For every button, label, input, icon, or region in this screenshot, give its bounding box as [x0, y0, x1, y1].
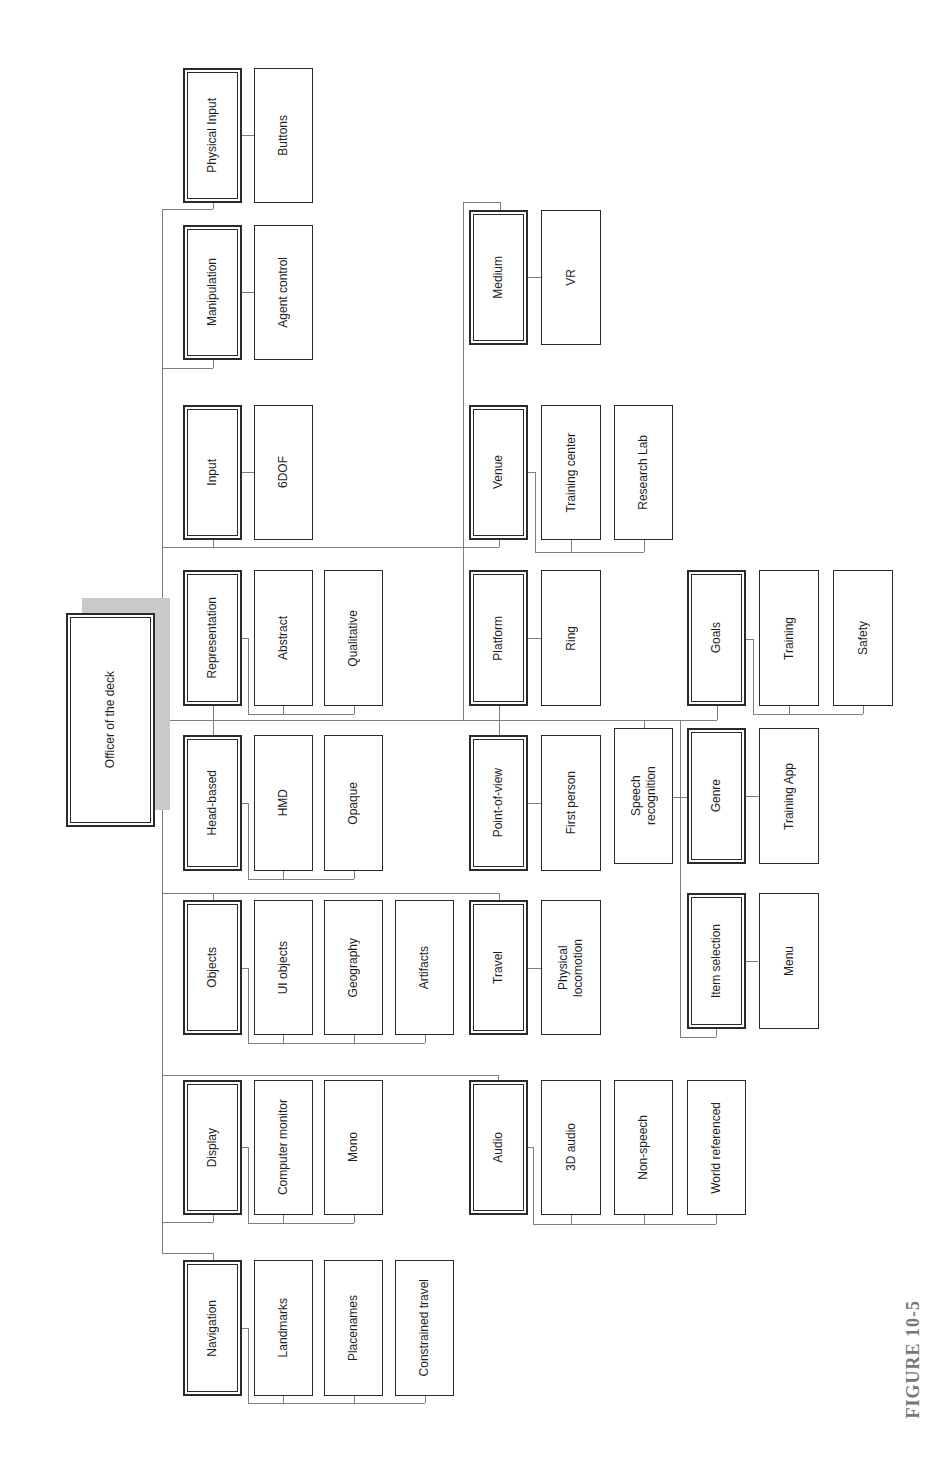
node-label: Genre: [709, 779, 724, 812]
connector-line: [242, 135, 254, 136]
connector-line: [248, 1147, 249, 1223]
node-agent-control: Agent control: [254, 225, 313, 360]
connector-line: [425, 1396, 426, 1403]
node-label: Geography: [346, 938, 361, 997]
node-ui-objects: UI objects: [254, 900, 313, 1035]
connector-line: [354, 1396, 355, 1403]
connector-second-trunk: [463, 202, 464, 720]
node-research-lab: Research Lab: [614, 405, 673, 540]
connector-line: [213, 706, 214, 735]
node-label: Audio: [491, 1132, 506, 1163]
connector-line: [535, 552, 644, 553]
node-label: Abstract: [276, 616, 291, 660]
connector-line: [716, 1029, 717, 1037]
node-6dof: 6DOF: [254, 405, 313, 540]
node-abstract: Abstract: [254, 570, 313, 706]
node-label: Safety: [856, 621, 871, 655]
connector-line: [283, 706, 284, 714]
node-physical-input: Physical Input: [183, 68, 242, 203]
connector-line: [248, 1043, 425, 1044]
node-label: Officer of the deck: [103, 671, 118, 768]
connector-line: [162, 368, 213, 369]
connector-line: [354, 871, 355, 879]
node-artifacts: Artifacts: [395, 900, 454, 1035]
connector-line: [499, 706, 500, 735]
connector-line: [213, 1253, 214, 1260]
connector-line: [242, 292, 254, 293]
node-label: Agent control: [276, 257, 291, 328]
node-travel: Travel: [469, 900, 528, 1035]
node-label: Menu: [782, 946, 797, 976]
connector-line: [213, 1215, 214, 1222]
node-label: Objects: [205, 947, 220, 988]
connector-line: [533, 1147, 534, 1224]
node-label: Training center: [564, 433, 579, 513]
connector-line: [571, 540, 572, 552]
node-placenames: Placenames: [324, 1260, 383, 1396]
connector-line: [248, 638, 249, 714]
connector-line: [753, 639, 754, 714]
connector-line: [673, 797, 687, 798]
node-physical-locomotion: Physical locomotion: [541, 900, 601, 1035]
node-genre: Genre: [687, 728, 746, 864]
connector-line: [213, 202, 214, 209]
connector-line: [248, 879, 354, 880]
node-point-of-view: Point-of-view: [469, 735, 528, 871]
node-item-selection: Item selection: [687, 893, 746, 1029]
node-3d-audio: 3D audio: [541, 1080, 601, 1215]
node-label: Point-of-view: [491, 768, 506, 837]
connector-line: [528, 968, 541, 969]
connector-line: [242, 472, 254, 473]
node-label: Goals: [709, 622, 724, 653]
node-label: Representation: [205, 597, 220, 678]
connector-line: [354, 1035, 355, 1043]
connector-line: [863, 706, 864, 714]
node-label: Platform: [491, 616, 506, 661]
node-label: World referenced: [709, 1102, 724, 1194]
node-world-referenced: World referenced: [687, 1080, 746, 1215]
node-label: Physical locomotion: [556, 931, 586, 1005]
connector-line: [746, 961, 758, 962]
connector-line: [283, 1396, 284, 1403]
connector-line: [499, 893, 500, 900]
connector-line: [499, 540, 500, 547]
connector-line: [644, 1215, 645, 1224]
node-audio: Audio: [469, 1080, 528, 1215]
node-label: Medium: [491, 256, 506, 299]
node-head-based: Head-based: [183, 735, 242, 871]
connector-line: [248, 968, 249, 1043]
node-label: Constrained travel: [417, 1279, 432, 1376]
node-label: Item selection: [709, 924, 724, 998]
connector-line: [354, 706, 355, 714]
node-label: Opaque: [346, 782, 361, 825]
node-label: 3D audio: [564, 1123, 579, 1171]
connector-root-line: [155, 720, 717, 721]
node-training-center: Training center: [541, 405, 601, 540]
connector-line: [528, 638, 541, 639]
node-label: Travel: [491, 951, 506, 984]
node-training: Training: [759, 570, 819, 706]
node-manipulation: Manipulation: [183, 225, 242, 360]
connector-line: [644, 540, 645, 552]
node-label: Manipulation: [205, 258, 220, 326]
node-label: Navigation: [205, 1300, 220, 1357]
diagram-canvas: Officer of the deck Physical Input Butto…: [0, 0, 927, 1470]
node-vr: VR: [541, 210, 601, 345]
connector-line: [716, 1215, 717, 1224]
connector-line: [500, 202, 501, 210]
connector-line: [644, 720, 645, 728]
node-label: Landmarks: [276, 1298, 291, 1357]
connector-line: [746, 639, 753, 640]
connector-line: [528, 803, 541, 804]
connector-line: [248, 1328, 249, 1403]
connector-line: [463, 202, 500, 203]
figure-caption: FIGURE 10-5: [903, 1300, 924, 1419]
connector-line: [533, 1224, 716, 1225]
node-representation: Representation: [183, 570, 242, 706]
connector-line: [283, 1035, 284, 1043]
connector-line: [248, 803, 249, 879]
connector-line: [213, 360, 214, 368]
node-navigation: Navigation: [183, 1260, 242, 1396]
node-goals: Goals: [687, 570, 746, 706]
connector-line: [162, 1253, 213, 1254]
